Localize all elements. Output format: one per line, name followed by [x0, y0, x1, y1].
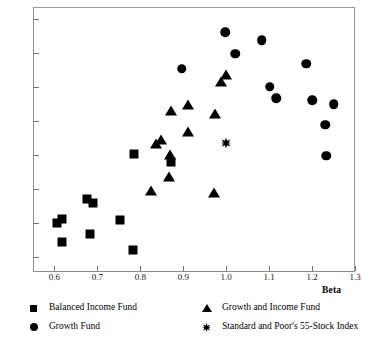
legend-item-label: Standard and Poor's 55-Stock Index: [222, 322, 358, 332]
data-point-growth-fund: [272, 94, 282, 104]
data-point-growth-and-income-fund: [163, 171, 175, 181]
star-marker-icon: [200, 323, 213, 332]
scatter-plot-figure: 678910111213 0.60.70.80.91.01.11.21.3 Be…: [0, 0, 373, 341]
data-point-growth-fund: [230, 49, 240, 59]
legend-item-label: Growth Fund: [49, 322, 100, 332]
legend-item-balanced-income-fund: Balanced Income Fund: [27, 300, 137, 316]
x-axis-tick-label: 1.0: [221, 273, 232, 282]
y-axis-tick: [34, 19, 39, 20]
data-point-growth-and-income-fund: [208, 187, 220, 197]
y-axis-tick: [34, 121, 39, 122]
data-point-balanced-income-fund: [128, 245, 137, 254]
data-point-standard-and-poor-s-55-stock-index: [221, 137, 232, 148]
x-axis-tick-label: 0.6: [49, 273, 60, 282]
triangle-marker-icon: [200, 304, 213, 312]
plot-area: [33, 7, 355, 272]
data-point-growth-and-income-fund: [165, 106, 177, 116]
data-point-growth-and-income-fund: [164, 150, 176, 160]
data-point-growth-and-income-fund: [220, 69, 232, 79]
x-axis-tick-label: 0.7: [92, 273, 103, 282]
legend-column-right: Growth and Income Fund Standard and Poor…: [200, 300, 358, 338]
x-axis-tick-label: 0.8: [135, 273, 146, 282]
x-axis-tick-label: 1.1: [264, 273, 275, 282]
data-point-balanced-income-fund: [57, 237, 66, 246]
data-point-growth-fund: [321, 120, 331, 130]
square-marker-icon: [27, 305, 40, 312]
data-point-growth-and-income-fund: [155, 135, 167, 145]
legend-item-label: Balanced Income Fund: [49, 303, 137, 313]
legend-column-left: Balanced Income Fund Growth Fund: [27, 300, 137, 338]
x-axis-title: Beta: [322, 285, 341, 295]
data-point-growth-fund: [177, 64, 187, 74]
data-point-growth-and-income-fund: [182, 100, 194, 110]
y-axis-tick: [34, 87, 39, 88]
data-point-growth-fund: [265, 82, 275, 92]
data-point-balanced-income-fund: [129, 150, 138, 159]
legend-item-sp-55-stock-index: Standard and Poor's 55-Stock Index: [200, 319, 358, 335]
data-point-growth-and-income-fund: [145, 186, 157, 196]
x-axis-tick: [183, 266, 184, 271]
x-axis-tick: [312, 266, 313, 271]
legend-item-growth-fund: Growth Fund: [27, 319, 137, 335]
data-point-balanced-income-fund: [86, 229, 95, 238]
y-axis-tick: [34, 189, 39, 190]
data-point-growth-fund: [308, 96, 318, 106]
data-point-growth-fund: [221, 28, 231, 38]
y-axis-tick: [34, 53, 39, 54]
data-point-balanced-income-fund: [116, 216, 125, 225]
x-axis-tick-label: 1.2: [306, 273, 317, 282]
x-axis-tick: [355, 266, 356, 271]
x-axis-tick: [226, 266, 227, 271]
x-axis-tick-label: 1.3: [349, 273, 360, 282]
data-point-balanced-income-fund: [89, 199, 98, 208]
legend-item-label: Growth and Income Fund: [222, 303, 320, 313]
data-point-growth-fund: [321, 151, 331, 161]
legend-item-growth-and-income-fund: Growth and Income Fund: [200, 300, 358, 316]
data-point-growth-fund: [257, 36, 267, 46]
data-point-balanced-income-fund: [58, 214, 67, 223]
data-point-growth-and-income-fund: [182, 126, 194, 136]
x-axis-tick: [97, 266, 98, 271]
legend: Balanced Income Fund Growth Fund Growth …: [0, 300, 373, 341]
y-axis-tick: [34, 223, 39, 224]
x-axis-tick: [54, 266, 55, 271]
x-axis-tick: [140, 266, 141, 271]
y-axis-tick: [34, 155, 39, 156]
data-point-growth-fund: [329, 99, 339, 109]
x-axis-tick-label: 0.9: [178, 273, 189, 282]
x-axis-tick: [269, 266, 270, 271]
circle-marker-icon: [27, 323, 40, 331]
data-point-growth-fund: [301, 59, 311, 69]
data-point-growth-and-income-fund: [209, 109, 221, 119]
y-axis-tick: [34, 257, 39, 258]
